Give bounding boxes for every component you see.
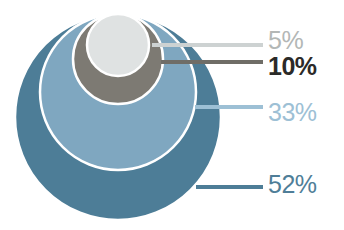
label-percent-52: 52%: [268, 170, 317, 198]
label-percent-33: 33%: [268, 98, 317, 126]
label-percent-5: 5%: [268, 26, 303, 54]
nested-circle-chart: 5% 10% 33% 52%: [0, 0, 344, 230]
chart-canvas: 5% 10% 33% 52%: [0, 0, 344, 230]
circle-slice-5[interactable]: [87, 14, 149, 76]
label-percent-10: 10%: [268, 52, 317, 80]
